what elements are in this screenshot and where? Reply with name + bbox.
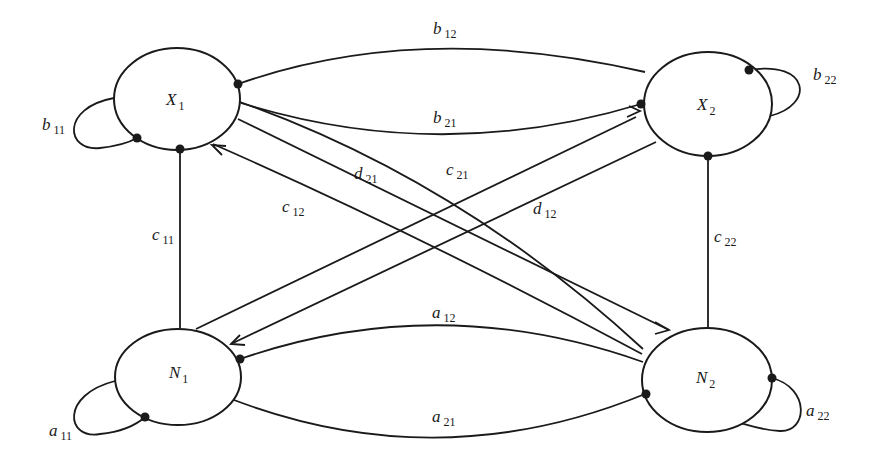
label-b22: b22	[813, 65, 837, 87]
dot-b11	[133, 134, 142, 143]
label-b21: b21	[433, 108, 457, 130]
edge-c21	[196, 117, 636, 329]
label-d21: d21	[354, 164, 378, 186]
label-c21: c21	[446, 160, 469, 182]
edge-b12	[238, 49, 645, 84]
arrowhead-d21	[655, 322, 669, 334]
label-c11: c11	[152, 225, 174, 247]
label-c12: c12	[282, 197, 305, 219]
dot-a22	[768, 374, 777, 383]
edge-a12	[240, 325, 643, 362]
dot-a21-n2	[642, 390, 651, 399]
dot-a12-n1	[236, 355, 245, 364]
label-a12: a12	[432, 303, 456, 325]
dot-b22	[745, 66, 754, 75]
label-c22: c22	[714, 227, 737, 249]
edge-d21	[238, 119, 669, 330]
node-x1	[114, 48, 240, 150]
dot-b12-x1	[234, 80, 243, 89]
label-b12: b12	[433, 19, 457, 41]
label-b11: b11	[42, 115, 65, 137]
dot-c22-x2	[704, 152, 713, 161]
label-a11: a11	[49, 421, 72, 443]
dot-b21-x2	[637, 100, 646, 109]
interaction-diagram: X1 X2 N1 N2 b12 b21 b11 b22 d21 c21 c12 …	[0, 0, 885, 465]
label-d12: d12	[533, 199, 557, 221]
dot-a11	[141, 413, 150, 422]
label-a21: a21	[432, 407, 456, 429]
dot-c11-x1	[176, 145, 185, 154]
label-a22: a22	[806, 401, 830, 423]
